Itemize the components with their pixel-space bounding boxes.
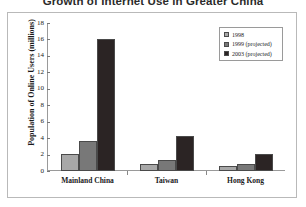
- chart-title: Growth of Internet Use in Greater China: [0, 0, 306, 7]
- bar-group: [127, 23, 206, 171]
- bar: [219, 166, 237, 171]
- chart-figure: Growth of Internet Use in Greater China …: [0, 0, 306, 207]
- y-tick-label: 2: [30, 151, 44, 158]
- y-tick-label: 12: [30, 69, 44, 76]
- bar: [79, 141, 97, 171]
- y-axis-tick-labels: 024681012141618: [26, 23, 44, 171]
- y-tick-mark: [47, 155, 50, 156]
- y-tick-mark: [47, 72, 50, 73]
- y-tick-label: 10: [30, 85, 44, 92]
- y-tick-label: 6: [30, 118, 44, 125]
- y-tick-mark: [47, 122, 50, 123]
- bar-group: [48, 23, 127, 171]
- bar: [237, 164, 255, 171]
- bar: [255, 154, 273, 171]
- legend-swatch-icon: [224, 32, 229, 37]
- bar: [158, 160, 176, 171]
- y-tick-mark: [47, 23, 50, 24]
- bar: [97, 39, 115, 171]
- x-tick-mark: [206, 171, 207, 175]
- bar: [176, 136, 194, 171]
- y-tick-label: 4: [30, 135, 44, 142]
- y-tick-mark: [47, 56, 50, 57]
- x-category-label: Hong Kong: [206, 176, 285, 185]
- bar: [61, 154, 79, 171]
- chart-legend: 19981999 (projected)2003 (projected): [219, 27, 283, 61]
- legend-label: 2003 (projected): [232, 51, 272, 57]
- y-tick-label: 0: [30, 168, 44, 175]
- legend-item: 1998: [224, 31, 279, 38]
- y-tick-mark: [47, 39, 50, 40]
- legend-item: 1999 (projected): [224, 41, 279, 48]
- legend-swatch-icon: [224, 42, 229, 47]
- x-category-label: Taiwan: [127, 176, 206, 185]
- y-tick-label: 16: [30, 36, 44, 43]
- y-tick-mark: [47, 138, 50, 139]
- y-tick-label: 14: [30, 52, 44, 59]
- y-tick-label: 18: [30, 20, 44, 27]
- legend-swatch-icon: [224, 51, 229, 56]
- y-tick-mark: [47, 171, 50, 172]
- x-tick-mark: [127, 171, 128, 175]
- bar: [140, 164, 158, 171]
- y-tick-mark: [47, 105, 50, 106]
- y-tick-label: 8: [30, 102, 44, 109]
- x-category-label: Mainland China: [48, 176, 127, 185]
- legend-label: 1999 (projected): [232, 41, 272, 47]
- y-tick-mark: [47, 89, 50, 90]
- legend-label: 1998: [232, 32, 244, 38]
- legend-item: 2003 (projected): [224, 50, 279, 57]
